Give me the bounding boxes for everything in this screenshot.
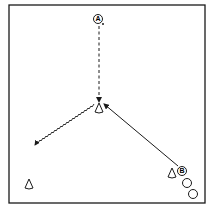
dribble-path [35,104,94,145]
field-border [9,5,205,203]
pass-path [104,104,178,166]
player-a-label: A [96,15,101,22]
waiting-player [183,179,192,188]
cone-icon-right [168,168,176,178]
waiting-player [189,190,198,199]
cone-icon-left [25,179,33,189]
player-b-label: B [180,167,185,174]
cone-icon-center [95,103,103,113]
drill-diagram [0,0,215,214]
